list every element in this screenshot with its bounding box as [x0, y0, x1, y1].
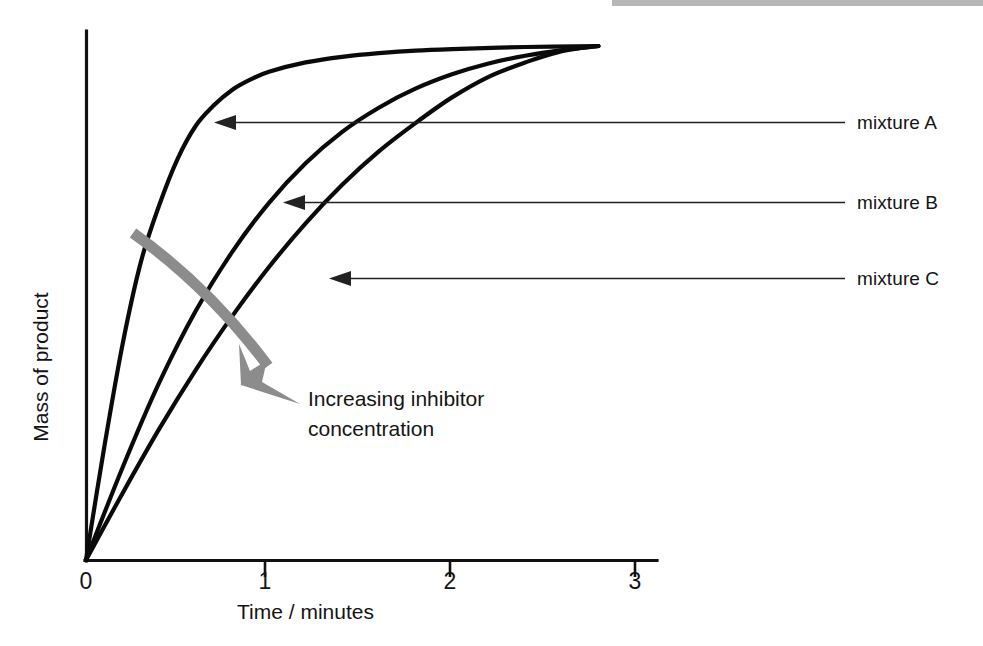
x-tick-label-0: 0 [66, 568, 106, 595]
x-tick-label-1: 1 [245, 568, 285, 595]
series-label-mixture-c: mixture C [857, 268, 939, 290]
leader-mixture-b [283, 195, 845, 210]
x-tick-label-3: 3 [615, 568, 655, 595]
leader-mixture-c [329, 271, 845, 286]
annotation-line-2: concentration [308, 414, 484, 444]
y-axis-title: Mass of product [29, 287, 53, 447]
increasing-inhibitor-annotation: Increasing inhibitor concentration [308, 384, 484, 444]
chart-plot-area [0, 0, 983, 646]
chart-figure: mixture A mixture B mixture C 0 1 2 3 Ti… [0, 0, 983, 646]
series-label-mixture-a: mixture A [857, 112, 937, 134]
x-axis-title: Time / minutes [237, 600, 374, 624]
annotation-line-1: Increasing inhibitor [308, 384, 484, 414]
series-label-mixture-b: mixture B [857, 192, 938, 214]
x-tick-label-2: 2 [430, 568, 470, 595]
leader-mixture-a [214, 115, 845, 130]
